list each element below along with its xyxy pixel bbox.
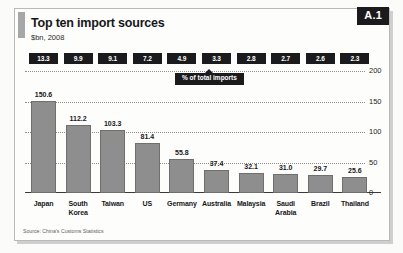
y-axis-tick-label: 100 (369, 128, 382, 136)
page-title: Top ten import sources (31, 16, 165, 30)
category-label-brazil: Brazil (302, 199, 339, 208)
bar-value-label: 103.3 (95, 120, 130, 127)
bar-value-label: 150.6 (26, 91, 61, 98)
percent-chip-saudi-arabia: 2.7 (271, 53, 300, 64)
bar-value-label: 37.4 (199, 160, 234, 167)
bar-value-label: 32.1 (234, 163, 269, 170)
title-accent-bar (18, 12, 25, 38)
bar-brazil (308, 175, 333, 193)
category-label-germany: Germany (163, 199, 200, 208)
percent-chip-malaysia: 2.8 (237, 53, 266, 64)
bar-malaysia (239, 173, 264, 193)
y-axis-tick-label: 50 (369, 159, 377, 167)
chart-plot-area: 050100150200150.6112.2103.381.455.837.43… (25, 71, 365, 193)
gridline (25, 102, 365, 103)
percent-chip-australia: 3.3 (202, 53, 231, 64)
category-label-malaysia: Malaysia (233, 199, 270, 208)
bar-value-label: 29.7 (303, 165, 338, 172)
figure-panel: Top ten import sources $bn, 2008 A.1 13.… (14, 8, 390, 241)
bar-saudi-arabia (273, 174, 298, 193)
category-label-japan: Japan (25, 199, 62, 208)
bar-value-label: 81.4 (130, 133, 165, 140)
bar-germany (169, 159, 194, 193)
bar-australia (204, 170, 229, 193)
percent-chip-taiwan: 9.1 (98, 53, 127, 64)
figure-subtitle: $bn, 2008 (31, 33, 64, 42)
gridline (25, 71, 365, 72)
category-label-saudi-arabia: Saudi Arabia (267, 199, 304, 217)
percent-chip-brazil: 2.6 (306, 53, 335, 64)
category-label-south-korea: South Korea (60, 199, 97, 217)
y-axis-tick-label: 150 (369, 98, 382, 106)
category-label-us: US (129, 199, 166, 208)
figure-page: Top ten import sources $bn, 2008 A.1 13.… (0, 0, 403, 253)
bar-us (135, 143, 160, 193)
y-axis-tick-label: 200 (369, 67, 382, 75)
bar-thailand (342, 177, 367, 193)
figure-id-badge: A.1 (357, 7, 389, 25)
bar-value-label: 55.8 (164, 149, 199, 156)
y-axis-tick-label: 0 (369, 189, 373, 197)
bar-taiwan (100, 130, 125, 193)
source-note: Source: China's Customs Statistics (23, 228, 104, 234)
bar-value-label: 112.2 (61, 115, 96, 122)
percent-chip-thailand: 2.3 (340, 53, 369, 64)
bar-value-label: 25.6 (337, 167, 372, 174)
percent-chip-south-korea: 9.9 (64, 53, 93, 64)
percent-chip-us: 7.2 (133, 53, 162, 64)
percent-chip-germany: 4.9 (167, 53, 196, 64)
percent-chip-row: 13.39.99.17.24.93.32.82.72.62.3 (25, 53, 381, 66)
percent-callout-label: % of total imports (175, 73, 244, 85)
bar-japan (31, 101, 56, 193)
bar-south-korea (66, 125, 91, 193)
bar-value-label: 31.0 (268, 164, 303, 171)
category-label-row: JapanSouth KoreaTaiwanUSGermanyAustralia… (25, 199, 381, 223)
category-label-taiwan: Taiwan (94, 199, 131, 208)
percent-chip-japan: 13.3 (29, 53, 58, 64)
category-label-australia: Australia (198, 199, 235, 208)
category-label-thailand: Thailand (336, 199, 373, 208)
